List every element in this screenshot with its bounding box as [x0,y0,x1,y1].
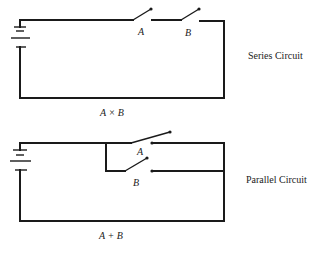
series-switch-b-icon [181,7,201,20]
series-title: Series Circuit [248,50,303,61]
parallel-circuit: A B A + B Parallel Circuit [10,130,307,241]
parallel-battery-icon [10,143,31,221]
parallel-switch-a-icon [131,130,172,143]
parallel-title: Parallel Circuit [246,174,307,185]
parallel-switch-b-icon [125,156,149,171]
series-circuit: A B A × B Series Circuit [11,7,303,118]
series-switch-b-label: B [185,27,191,38]
series-switch-a-icon [133,7,153,20]
series-expression: A × B [99,107,124,118]
parallel-switch-b-label: B [133,177,139,188]
series-switch-a-label: A [137,26,145,37]
parallel-branch-wire [106,143,125,171]
series-return-wire [20,21,224,98]
parallel-expression: A + B [98,230,123,241]
series-battery-icon [11,20,30,98]
parallel-return-wire [20,143,224,221]
parallel-switch-a-label: A [136,146,144,157]
circuit-diagram: A B A × B Series Circuit [0,0,327,253]
